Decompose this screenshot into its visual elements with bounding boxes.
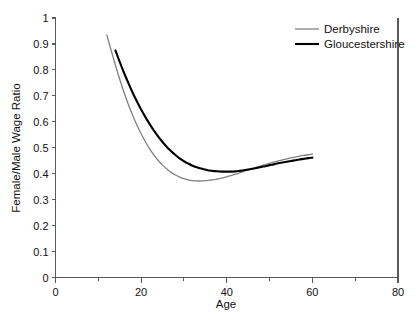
legend-label-derbyshire: Derbyshire xyxy=(324,23,380,35)
legend-label-gloucestershire: Gloucestershire xyxy=(324,38,405,50)
y-tick-label: 0.8 xyxy=(33,64,48,76)
x-tick-label: 20 xyxy=(135,286,147,298)
y-tick-label: 0.7 xyxy=(33,90,48,102)
x-tick-label: 40 xyxy=(221,286,233,298)
x-tick-label: 60 xyxy=(306,286,318,298)
y-tick-label: 0.9 xyxy=(33,38,48,50)
y-tick-label: 1 xyxy=(42,12,48,24)
y-axis-title: Female/Male Wage Ratio xyxy=(10,83,22,212)
y-tick-label: 0 xyxy=(42,272,48,284)
x-axis-title: Age xyxy=(216,298,236,310)
y-tick-label: 0.4 xyxy=(33,168,48,180)
y-tick-label: 0.1 xyxy=(33,246,48,258)
y-tick-label: 0.6 xyxy=(33,116,48,128)
line-chart: 00.10.20.30.40.50.60.70.80.91 020406080 … xyxy=(0,0,415,320)
y-tick-label: 0.3 xyxy=(33,194,48,206)
y-tick-label: 0.5 xyxy=(33,142,48,154)
x-tick-label: 0 xyxy=(52,286,58,298)
chart-container: 00.10.20.30.40.50.60.70.80.91 020406080 … xyxy=(0,0,415,320)
y-tick-label: 0.2 xyxy=(33,220,48,232)
x-tick-label: 80 xyxy=(392,286,404,298)
